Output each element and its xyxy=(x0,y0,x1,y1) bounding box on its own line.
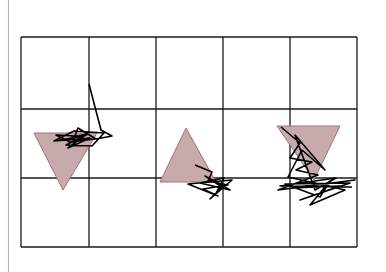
triangle-up-middle xyxy=(160,128,216,182)
grid-figure xyxy=(0,0,386,272)
trajectory-left xyxy=(54,84,112,148)
triangle-down-left xyxy=(34,133,97,190)
